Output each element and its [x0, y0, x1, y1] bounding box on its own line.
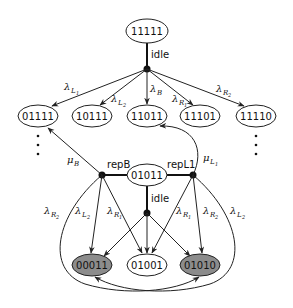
svg-text:λ: λ [171, 93, 178, 104]
node-10111: 10111 [72, 105, 112, 127]
svg-text:1: 1 [188, 214, 191, 220]
svg-text:2: 2 [214, 214, 218, 220]
svg-text:2: 2 [55, 214, 59, 220]
svg-text:μ: μ [203, 152, 210, 163]
svg-text:2: 2 [86, 214, 90, 220]
svg-text:λ: λ [110, 93, 117, 104]
svg-text:1: 1 [76, 90, 79, 96]
edge-to-11110 [147, 69, 244, 106]
svg-text:B: B [73, 160, 79, 168]
label-repB: repB [107, 159, 130, 170]
node-11111: 11111 [126, 19, 168, 43]
svg-text:11101: 11101 [184, 111, 216, 122]
svg-text:11111: 11111 [131, 26, 163, 37]
svg-text:01011: 01011 [131, 170, 163, 181]
node-01010-absorbing: 01010 [180, 254, 220, 276]
rate-mu-B: μ B [67, 154, 79, 168]
state-transition-diagram: idle λ L 1 λ L 2 λ B λ R 1 λ R 2 [0, 0, 293, 308]
rate-lambda-L2-left: λ L 2 [74, 205, 90, 220]
rate-lambda-R1-left: λ R 1 [106, 205, 122, 220]
rate-lambda-L2-top: λ L 2 [110, 93, 126, 108]
node-11011: 11011 [127, 105, 167, 127]
label-repL1: repL1 [167, 159, 195, 170]
svg-text:2: 2 [241, 214, 245, 220]
node-11110: 11110 [236, 105, 276, 127]
svg-text:2: 2 [122, 102, 126, 108]
rate-lambda-B-top: λ B [149, 83, 162, 97]
svg-text:μ: μ [67, 154, 74, 165]
edge-repL1-to-01010 [193, 175, 202, 253]
svg-text:λ: λ [175, 205, 182, 216]
svg-text:2: 2 [227, 92, 231, 98]
node-11101: 11101 [180, 105, 220, 127]
svg-text:1: 1 [184, 102, 187, 108]
svg-text:λ: λ [229, 205, 236, 216]
rate-lambda-R1-right: λ R 1 [175, 205, 191, 220]
svg-text:10111: 10111 [76, 111, 108, 122]
node-00011-absorbing: 00011 [72, 254, 112, 276]
rate-lambda-R2-right: λ R 2 [202, 205, 218, 220]
node-01111: 01111 [18, 105, 58, 127]
node-01011: 01011 [127, 164, 167, 186]
svg-text:01001: 01001 [131, 260, 163, 271]
svg-text:11110: 11110 [240, 111, 272, 122]
rate-lambda-L1-top: λ L 1 [63, 81, 79, 96]
svg-text:00011: 00011 [76, 260, 108, 271]
svg-text:1: 1 [119, 214, 122, 220]
edge-repB-to-00011 [91, 175, 102, 253]
svg-text:λ: λ [215, 83, 222, 94]
svg-text:01010: 01010 [184, 260, 216, 271]
svg-text:λ: λ [43, 205, 50, 216]
label-idle-top: idle [151, 49, 169, 60]
svg-text:1: 1 [215, 161, 218, 167]
svg-text:B: B [156, 89, 162, 97]
svg-text:λ: λ [74, 205, 81, 216]
svg-text:λ: λ [63, 81, 70, 92]
svg-text:λ: λ [149, 83, 156, 94]
svg-text:01111: 01111 [22, 111, 54, 122]
label-idle-mid: idle [151, 193, 169, 204]
edge-to-10111 [100, 69, 147, 105]
svg-text:11011: 11011 [131, 111, 163, 122]
svg-text:λ: λ [202, 205, 209, 216]
rate-mu-L1: μ L 1 [203, 152, 218, 167]
node-01001: 01001 [127, 254, 167, 276]
svg-text:λ: λ [106, 205, 113, 216]
ellipsis-left [37, 135, 40, 156]
rate-lambda-L2-right: λ L 2 [229, 205, 245, 220]
rate-lambda-R1-top: λ R 1 [171, 93, 187, 108]
rate-lambda-R2-left: λ R 2 [43, 205, 59, 220]
ellipsis-right [255, 135, 258, 156]
